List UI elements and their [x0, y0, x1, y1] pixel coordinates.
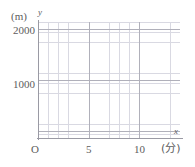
major-gridlines	[38, 22, 180, 139]
origin-label: O	[31, 144, 39, 155]
y-tick-label-1000: 1000	[13, 79, 35, 90]
graph-figure: (m) y 2000 1000 O 5 10 x (分)	[0, 0, 195, 167]
x-axis-unit-label: (分)	[161, 143, 181, 154]
y-axis-name-label: y	[38, 8, 42, 17]
plot-area	[38, 22, 180, 139]
y-tick-label-2000: 2000	[13, 25, 35, 36]
x-axis-name-label: x	[174, 127, 178, 136]
x-axis-line	[37, 138, 183, 139]
y-axis-unit-label: (m)	[11, 11, 27, 22]
x-tick-label-5: 5	[86, 144, 92, 155]
x-tick-label-10: 10	[134, 144, 145, 155]
y-axis-line	[38, 20, 39, 140]
